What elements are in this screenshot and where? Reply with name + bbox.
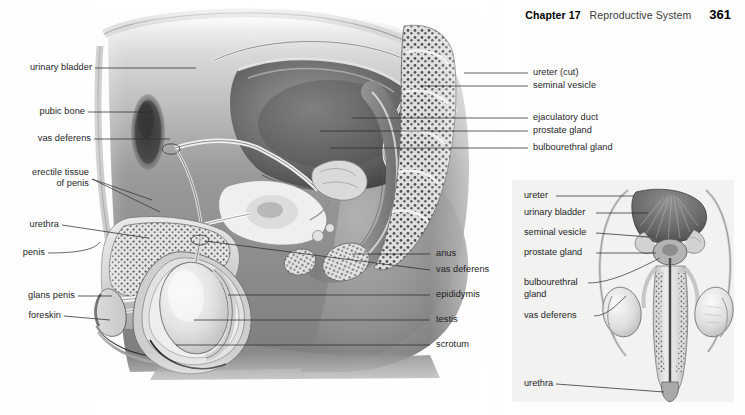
- label-foreskin: foreskin: [0, 310, 61, 321]
- label-scrotum: scrotum: [436, 339, 469, 350]
- label-urethra: urethra: [0, 219, 59, 230]
- label-anus: anus: [436, 248, 456, 259]
- inset-label-seminal-vesicle: seminal vesicle: [524, 227, 586, 239]
- label-vas-deferens-2: vas deferens: [436, 264, 489, 275]
- label-pubic-bone: pubic bone: [0, 106, 85, 117]
- label-prostate-gland: prostate gland: [533, 125, 592, 136]
- label-penis: penis: [0, 247, 45, 258]
- inset-organs: [599, 189, 737, 402]
- label-glans-penis: glans penis: [0, 290, 75, 301]
- label-ureter-cut: ureter (cut): [533, 67, 579, 78]
- label-erectile-tissue: erectile tissue of penis: [0, 167, 89, 190]
- chapter-number: Chapter 17: [525, 9, 580, 21]
- inset-label-vas-deferens: vas deferens: [524, 310, 577, 322]
- inset-testis-left: [599, 284, 645, 340]
- label-urinary-bladder: urinary bladder: [0, 62, 92, 73]
- label-testis: testis: [436, 314, 458, 325]
- page-number: 361: [709, 7, 731, 22]
- inset-label-urethra: urethra: [524, 378, 553, 390]
- inset-label-bulbourethral-gland: bulbourethral gland: [524, 277, 578, 300]
- running-head: Chapter 17 Reproductive System 361: [525, 7, 731, 22]
- chapter-title: Reproductive System: [590, 9, 692, 21]
- label-vas-deferens: vas deferens: [0, 133, 91, 144]
- figure-page: Chapter 17 Reproductive System 361 urina…: [0, 0, 745, 415]
- inset-label-prostate-gland: prostate gland: [524, 247, 582, 259]
- inset-label-ureter: ureter: [524, 190, 548, 202]
- inset-label-urinary-bladder: urinary bladder: [524, 207, 585, 219]
- inset-anatomical-illustration: [0, 0, 745, 415]
- label-seminal-vesicle: seminal vesicle: [533, 80, 596, 91]
- label-ejaculatory-duct: ejaculatory duct: [533, 112, 598, 123]
- label-epididymis: epididymis: [436, 289, 480, 300]
- label-bulbourethral-gland: bulbourethral gland: [533, 142, 613, 153]
